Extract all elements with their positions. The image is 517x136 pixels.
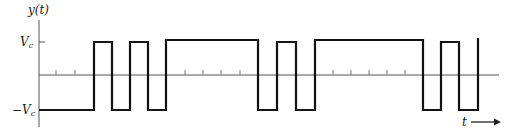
binary-waveform	[39, 38, 478, 110]
y-axis-label: y(t)	[27, 3, 49, 17]
waveform-diagram: y(t) Vc −Vc t	[0, 0, 517, 136]
time-arrow-icon	[471, 119, 501, 126]
bit-tick-marks	[56, 70, 405, 75]
time-axis-label: t	[462, 115, 467, 129]
vc-label: Vc	[20, 35, 34, 50]
neg-vc-label: −Vc	[12, 103, 36, 118]
